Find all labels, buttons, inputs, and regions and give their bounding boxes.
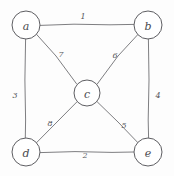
node-d-label: d [22,147,29,160]
edge-weight-a-c: 7 [58,50,64,59]
node-c[interactable]: c [74,80,100,106]
edge-b-e[interactable] [148,39,149,138]
edge-b-c[interactable] [97,35,137,84]
node-d[interactable]: d [12,138,40,166]
edge-weight-c-e: 5 [121,121,126,130]
node-e[interactable]: e [134,138,162,166]
node-b-label: b [144,20,151,33]
edge-weight-c-d: 8 [47,119,52,128]
edge-a-b[interactable] [40,24,134,25]
edge-a-d[interactable] [25,39,26,138]
edge-a-c[interactable] [36,34,76,83]
edge-c-e[interactable] [97,102,137,143]
node-b[interactable]: b [134,11,162,39]
edge-weight-d-e: 2 [81,151,87,160]
edge-weight-a-b: 1 [80,12,85,21]
edge-weight-a-d: 3 [12,91,17,100]
node-a-label: a [23,20,30,33]
node-e-label: e [145,147,152,160]
edge-c-d[interactable] [36,102,76,143]
graph-diagram-canvas: a b c d e 1 2 3 4 5 [0,0,174,176]
graph-svg: a b c d e 1 2 3 4 5 [0,0,174,176]
node-group: a b c d e [12,11,162,166]
node-a[interactable]: a [12,11,40,39]
edge-weight-b-e: 4 [154,91,160,100]
edge-weight-b-c: 6 [112,51,117,60]
node-c-label: c [84,88,90,101]
